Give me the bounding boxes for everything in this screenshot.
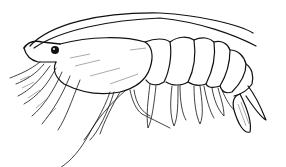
walking-legs [60,90,170,167]
mouthparts-shading [20,76,56,118]
abdomen-segment-5 [220,50,246,93]
eye-highlight [53,48,55,50]
abdomen-segment-6 [234,64,253,96]
eye [51,46,59,54]
shrimp-drawing [0,0,286,167]
uropod-shading [238,102,249,126]
pleopods [147,84,234,128]
abdomen-segment-4 [206,41,230,87]
carapace-shading [70,48,146,84]
mouthparts [10,62,80,130]
abdomen-segment-3 [188,38,215,85]
shrimp-illustration [0,0,286,167]
carapace [54,38,152,94]
